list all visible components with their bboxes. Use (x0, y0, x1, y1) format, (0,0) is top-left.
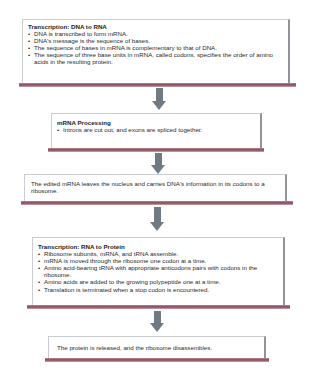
step-box-transcription-rna-to-protein: Transcription: RNA to Protein Ribosome s… (32, 237, 285, 305)
step-title: Transcription: RNA to Protein (38, 243, 278, 250)
step-bottom-bar (45, 358, 269, 362)
step-bottom-bar (21, 201, 293, 205)
step-bullet: The sequence of bases in mRNA is complem… (28, 44, 283, 51)
step-bullet: DNA's message is the sequence of bases. (28, 37, 283, 44)
step-bullet-list: Introns are cut out, and exons are splic… (57, 126, 255, 133)
step-bullet: Amino acids are added to the growing pol… (38, 278, 278, 285)
down-arrow-icon (150, 207, 164, 231)
step-bullet-list: DNA is transcribed to form mRNA. DNA's m… (28, 30, 283, 65)
step-box-mrna-processing: mRNA Processing Introns are cut out, and… (51, 113, 262, 148)
step-text: The protein is released, and the ribosom… (57, 344, 256, 351)
step-bullet: DNA is transcribed to form mRNA. (28, 30, 283, 37)
step-bullet: Ribosome subunits, mRNA, and tRNA assemb… (38, 250, 278, 257)
step-box-mrna-leaves-nucleus: The edited mRNA leaves the nucleus and c… (24, 174, 287, 201)
step-box-protein-released: The protein is released, and the ribosom… (48, 336, 266, 358)
step-bottom-bar (48, 148, 264, 152)
step-bottom-bar (19, 83, 296, 87)
down-arrow-icon (150, 311, 164, 332)
step-bullet: Introns are cut out, and exons are splic… (57, 126, 255, 133)
step-title: mRNA Processing (57, 119, 255, 126)
down-arrow-icon (152, 88, 166, 110)
step-bottom-bar (27, 305, 290, 309)
step-title: Transcription: DNA to RNA (28, 23, 283, 30)
step-bullet: The sequence of three base units in mRNA… (28, 51, 283, 65)
step-bullet: Amino acid-bearing tRNA with appropriate… (38, 264, 278, 278)
step-box-transcription-dna-to-rna: Transcription: DNA to RNA DNA is transcr… (22, 19, 290, 83)
step-text: The edited mRNA leaves the nucleus and c… (31, 180, 279, 194)
down-arrow-icon (151, 153, 165, 174)
step-bullet: mRNA is moved through the ribosome one c… (38, 257, 278, 264)
step-bullet-list: Ribosome subunits, mRNA, and tRNA assemb… (38, 250, 278, 293)
step-bullet: Translation is terminated when a stop co… (38, 286, 278, 293)
